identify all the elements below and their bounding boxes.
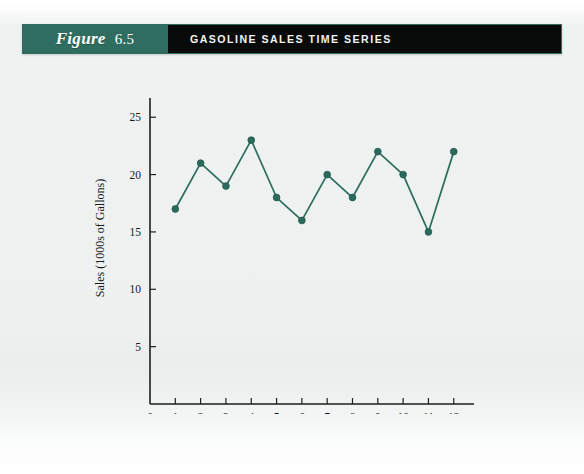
data-point [298, 217, 305, 224]
y-tick-label: 15 [130, 226, 142, 238]
figure-title: GASOLINE SALES TIME SERIES [190, 33, 392, 45]
data-point [197, 160, 204, 167]
data-point [324, 171, 331, 178]
x-tick-label: 8 [350, 411, 356, 414]
figure-title-strip: GASOLINE SALES TIME SERIES [168, 24, 562, 54]
figure-plate: Figure 6.5 GASOLINE SALES TIME SERIES 51… [22, 14, 562, 414]
x-tick-label: 5 [274, 411, 280, 414]
x-tick-label: 4 [248, 411, 254, 414]
data-point [425, 229, 432, 236]
x-tick-label: 11 [423, 411, 434, 414]
x-axis: 0123456789101112 [147, 398, 474, 414]
figure-label-block: Figure 6.5 [22, 24, 168, 54]
data-point [273, 194, 280, 201]
data-point [172, 206, 179, 213]
data-point [248, 137, 255, 144]
data-point [450, 148, 457, 155]
data-point [223, 183, 230, 190]
x-tick-label: 12 [448, 411, 460, 414]
x-tick-label: 1 [172, 411, 178, 414]
chart-plot-area: 510152025 0123456789101112 WeekSales (10… [22, 60, 562, 414]
y-tick-label: 25 [130, 111, 142, 123]
y-tick-label: 20 [130, 169, 142, 181]
y-tick-label: 10 [130, 283, 142, 295]
series-polyline [175, 140, 453, 232]
x-tick-label: 10 [397, 411, 409, 414]
x-tick-label: 2 [198, 411, 204, 414]
x-tick-label: 3 [223, 411, 229, 414]
data-series-sales [172, 137, 457, 236]
figure-header-bar: Figure 6.5 GASOLINE SALES TIME SERIES [22, 24, 562, 54]
y-axis: 510152025 [130, 98, 157, 404]
figure-number: 6.5 [115, 31, 135, 48]
x-tick-label: 0 [147, 411, 153, 414]
figure-word: Figure [56, 29, 106, 49]
data-point [349, 194, 356, 201]
x-tick-label: 6 [299, 411, 305, 414]
axis-titles: WeekSales (1000s of Gallons) [93, 179, 326, 414]
line-chart: 510152025 0123456789101112 WeekSales (10… [22, 60, 562, 414]
y-axis-title: Sales (1000s of Gallons) [93, 179, 107, 297]
y-tick-label: 5 [135, 341, 141, 353]
data-point [400, 171, 407, 178]
x-tick-label: 7 [324, 411, 330, 414]
figure-page: Figure 6.5 GASOLINE SALES TIME SERIES 51… [0, 0, 584, 474]
data-point [374, 148, 381, 155]
x-tick-label: 9 [375, 411, 381, 414]
